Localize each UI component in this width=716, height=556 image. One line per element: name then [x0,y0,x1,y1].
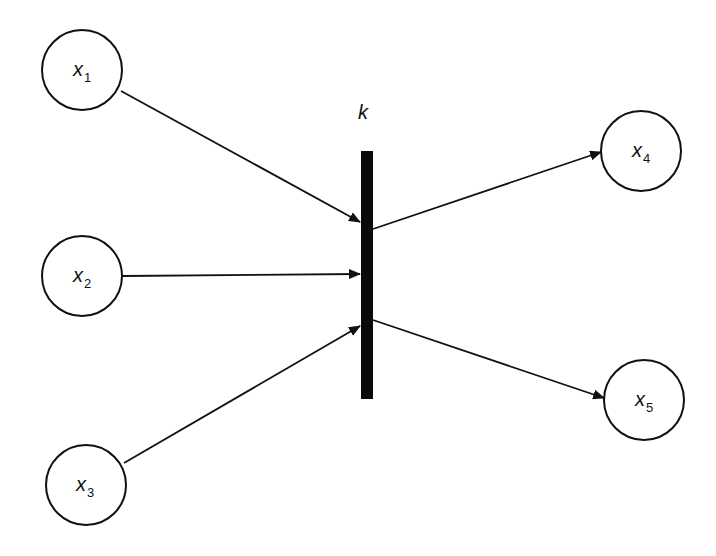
node-x2-subscript: 2 [84,276,91,291]
transition-bar [361,151,373,399]
transition-label: k [358,101,369,123]
node-x2-label: x [72,264,84,286]
node-x3: x 3 [46,445,126,525]
node-x5-label: x [634,388,646,410]
edge-k-to-x4 [373,152,601,229]
node-x4-subscript: 4 [643,151,650,166]
petri-net-diagram: k x 1 x 2 x 3 x 4 x 5 [0,0,716,556]
edge-k-to-x5 [373,320,604,398]
node-x1-subscript: 1 [84,70,91,85]
node-x4: x 4 [601,111,681,191]
edge-x3-to-k [124,326,360,463]
edge-x2-to-k [122,274,360,276]
edge-x1-to-k [121,91,360,222]
node-x2: x 2 [42,236,122,316]
node-x5-subscript: 5 [646,400,653,415]
node-x1: x 1 [42,30,122,110]
node-x1-label: x [72,58,84,80]
node-x3-label: x [75,473,87,495]
node-x5: x 5 [604,360,684,440]
node-x3-subscript: 3 [87,485,94,500]
node-x4-label: x [631,139,643,161]
